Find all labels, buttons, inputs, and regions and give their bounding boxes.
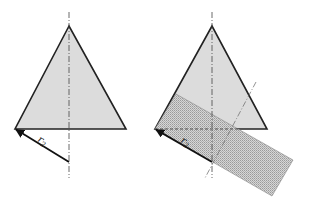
radius-label: r2 [35,133,50,149]
right-figure: r2 [155,12,293,196]
left-figure: r2 [15,12,126,178]
cone-triangle [15,26,126,129]
diagram-canvas: r2 r2 [0,0,309,206]
